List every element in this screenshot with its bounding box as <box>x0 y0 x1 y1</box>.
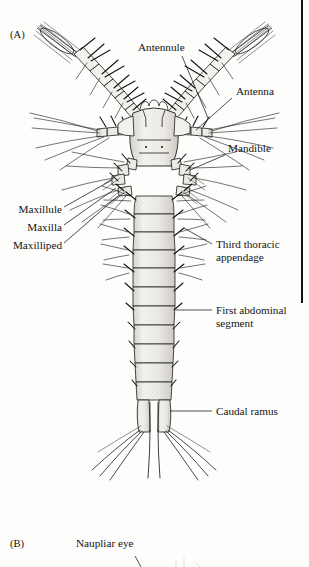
caudal-rami <box>92 400 216 480</box>
label-naupliar-eye: Naupliar eye <box>76 537 133 550</box>
mouthparts-left <box>62 152 137 228</box>
label-caudal-ramus: Caudal ramus <box>216 405 278 418</box>
label-first-abdominal-segment-line2: segment <box>216 317 253 330</box>
label-first-abdominal-segment-line1: First abdominal <box>216 304 287 317</box>
left-antennule <box>34 22 146 120</box>
label-maxillule: Maxillule <box>0 203 62 216</box>
panel-b-artwork-edge <box>176 558 200 567</box>
label-antenna: Antenna <box>236 85 274 98</box>
label-third-thoracic-appendage-line1: Third thoracic <box>216 238 280 251</box>
figure-plate: (A) <box>0 0 309 567</box>
right-antennule <box>163 22 275 120</box>
leader-third-thoracic <box>184 228 212 244</box>
label-maxilliped: Maxilliped <box>0 239 62 252</box>
right-margin-rule <box>301 0 303 303</box>
label-maxilla: Maxilla <box>0 221 62 234</box>
left-antenna <box>30 113 133 170</box>
label-antennule: Antennule <box>138 41 185 54</box>
label-third-thoracic-appendage-line2: appendage <box>216 251 264 264</box>
label-mandible: Mandible <box>228 142 271 155</box>
leader-maxillule <box>64 180 112 207</box>
panel-b-label: (B) <box>10 538 24 549</box>
abdomen-segments <box>125 283 183 400</box>
mouthparts-right <box>171 152 246 228</box>
leader-naupliar-eye <box>135 556 141 567</box>
thorax-segments <box>100 186 208 287</box>
